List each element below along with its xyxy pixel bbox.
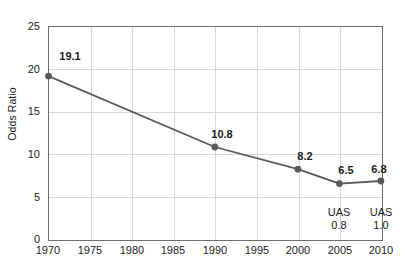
- point-label-2010: 6.8: [359, 163, 399, 175]
- x-tick-1970: 1970: [25, 244, 71, 256]
- point-label-1990: 10.8: [202, 128, 242, 140]
- annotation-uas-2005: UAS 0.8: [319, 206, 359, 232]
- annotation-uas-2005-value: 0.8: [319, 219, 359, 232]
- data-point-1970: [45, 73, 52, 80]
- x-tick-2010: 2010: [358, 244, 404, 256]
- data-point-1990: [212, 144, 219, 151]
- x-tick-2000: 2000: [275, 244, 321, 256]
- annotation-uas-2010-value: 1.0: [361, 219, 401, 232]
- data-point-2005: [336, 180, 343, 187]
- data-point-2000: [295, 166, 302, 173]
- point-label-2000: 8.2: [285, 150, 325, 162]
- odds-ratio-line-chart: Odds Ratio 25 20 15 10 5 0 19.1 10.8 8.2…: [0, 0, 408, 276]
- annotation-uas-2010-label: UAS: [370, 206, 393, 218]
- x-tick-1990: 1990: [192, 244, 238, 256]
- annotation-uas-2010: UAS 1.0: [361, 206, 401, 232]
- x-tick-1995: 1995: [234, 244, 280, 256]
- x-tick-1975: 1975: [67, 244, 113, 256]
- annotation-uas-2005-label: UAS: [328, 206, 351, 218]
- x-tick-1980: 1980: [109, 244, 155, 256]
- x-tick-1985: 1985: [150, 244, 196, 256]
- x-tick-2005: 2005: [317, 244, 363, 256]
- point-label-1970: 19.1: [50, 50, 90, 62]
- data-point-2010: [378, 178, 385, 185]
